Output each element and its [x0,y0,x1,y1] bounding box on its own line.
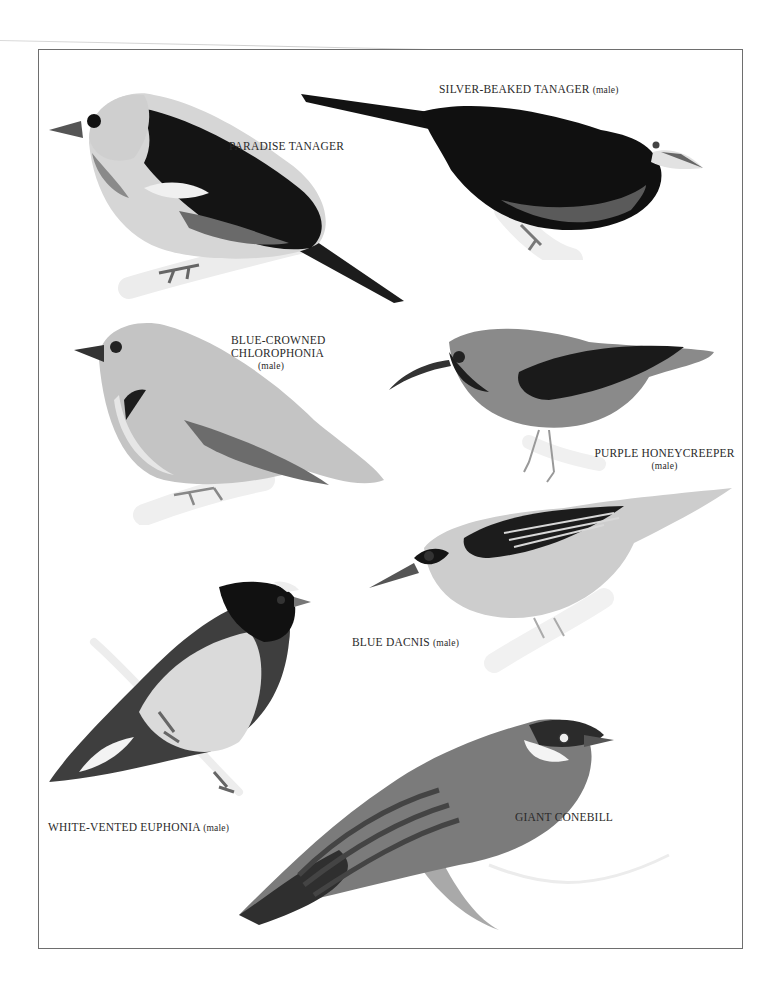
giant-conebill-label: GIANT CONEBILL [515,811,613,824]
illustration-plate: PARADISE TANAGER SILVER-BEAKED TANAGER (… [38,49,743,949]
blue-crowned-chlorophonia-illustration [64,320,389,525]
white-vented-euphonia-label: WHITE-VENTED EUPHONIA (male) [48,821,229,835]
blue-dacnis-label: BLUE DACNIS (male) [352,636,459,650]
silver-beaked-tanager-label: SILVER-BEAKED TANAGER (male) [439,83,619,97]
giant-conebill-illustration [239,705,719,935]
silver-beaked-tanager-illustration [301,90,711,260]
blue-crowned-chlorophonia-label: BLUE-CROWNED CHLOROPHONIA (male) [231,334,311,373]
purple-honeycreeper-label: PURPLE HONEYCREEPER (male) [592,447,737,473]
